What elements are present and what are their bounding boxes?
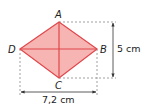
vertex-label-b: B (100, 44, 107, 55)
vertex-label-c: C (55, 80, 62, 91)
rhombus-diagram: A B C D 5 cm 7,2 cm (0, 0, 146, 104)
vertex-label-a: A (54, 9, 62, 20)
vertical-measure-label: 5 cm (117, 43, 141, 54)
vertex-label-d: D (8, 44, 16, 55)
horizontal-measure-label: 7,2 cm (42, 94, 75, 104)
